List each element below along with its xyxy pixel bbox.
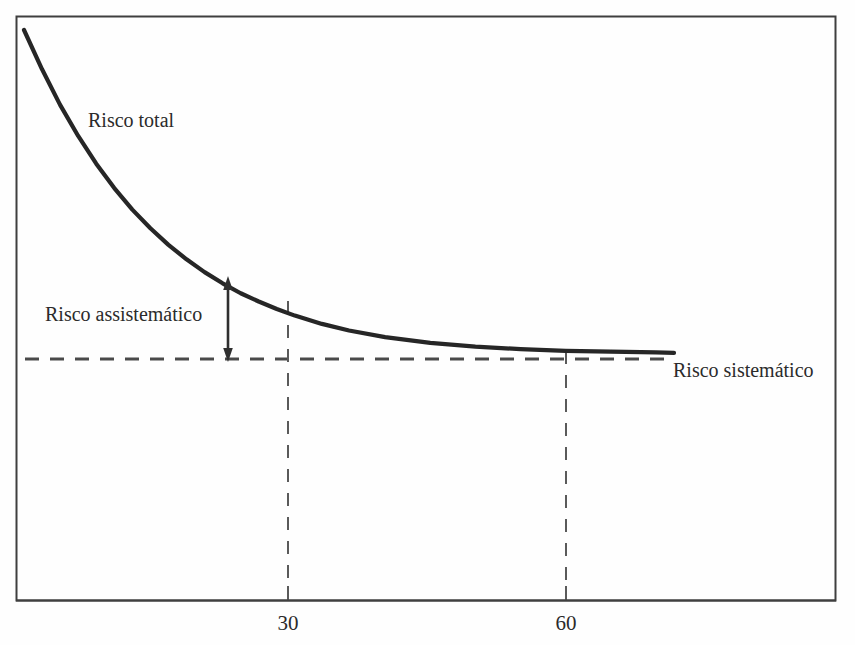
label-risco-sistematico: Risco sistemático <box>673 360 814 380</box>
x-tick-label-30: 30 <box>278 613 299 634</box>
risk-diversification-chart: Risco total Risco assistemático Risco si… <box>0 0 855 645</box>
label-risco-assistematico: Risco assistemático <box>45 304 202 324</box>
x-tick-label-60: 60 <box>556 613 577 634</box>
risco-assistematico-arrow <box>223 276 233 362</box>
label-risco-total: Risco total <box>88 110 174 130</box>
